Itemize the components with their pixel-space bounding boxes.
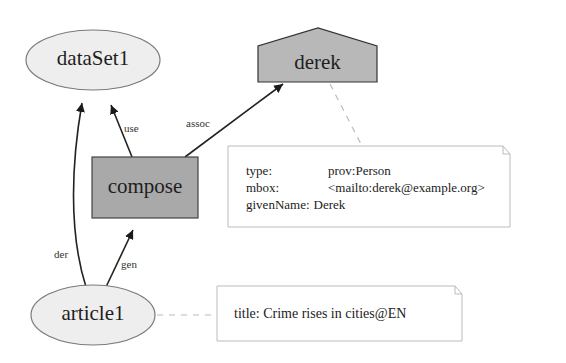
note-row-givenname: givenName: Derek (246, 196, 485, 213)
note-derek-properties: type: prov:Person mbox: <mailto:derek@ex… (246, 162, 485, 213)
node-article1[interactable]: article1 (31, 301, 155, 326)
note-value: <mailto:derek@example.org> (328, 179, 485, 196)
note-row-mbox: mbox: <mailto:derek@example.org> (246, 179, 485, 196)
note-key: type: (246, 162, 328, 179)
note-connector-derek (330, 84, 362, 146)
note-article1-properties: title: Crime rises in cities@EN (234, 305, 406, 322)
node-dataset1[interactable]: dataSet1 (26, 46, 160, 71)
note-key: givenName: (246, 196, 310, 213)
note-key: mbox: (246, 179, 328, 196)
note-value: Derek (314, 196, 346, 213)
node-compose[interactable]: compose (92, 174, 198, 199)
node-derek[interactable]: derek (258, 50, 377, 75)
note-row-type: type: prov:Person (246, 162, 485, 179)
note-key: title: (234, 306, 260, 321)
edge-label-gen: gen (121, 258, 137, 270)
edge-der[interactable] (74, 103, 87, 287)
note-value: Crime rises in cities@EN (263, 306, 406, 321)
edge-label-assoc: assoc (186, 117, 210, 129)
note-value: prov:Person (328, 162, 391, 179)
edge-label-der: der (54, 248, 68, 260)
edge-label-use: use (124, 122, 139, 134)
